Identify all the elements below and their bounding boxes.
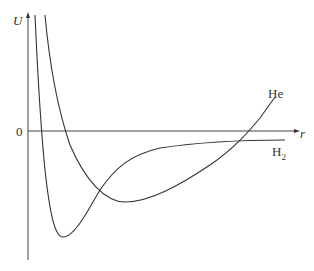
zero-label: 0 [16,125,23,138]
h2-curve-label: H2 [272,145,286,162]
he-curve-label: He [268,87,283,100]
h2-label-sub: 2 [281,152,286,162]
curve-h2 [35,15,285,237]
y-axis-arrow-icon [26,12,30,18]
potential-energy-diagram [0,0,314,271]
y-axis-label: U [13,14,22,27]
x-axis-label: r [300,127,305,140]
h2-label-main: H [272,144,281,159]
curve-he [45,15,275,202]
